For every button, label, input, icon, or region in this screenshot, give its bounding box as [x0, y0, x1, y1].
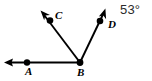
- point-label-C: C: [55, 10, 62, 21]
- ray-BD: [80, 9, 106, 63]
- point-label-B: B: [77, 67, 84, 78]
- point-dot-D: [97, 18, 104, 25]
- point-dot-C: [47, 17, 54, 24]
- point-label-A: A: [25, 66, 32, 77]
- angle-measure-label: 53°: [120, 3, 140, 16]
- geometry-figure: A B C D 53°: [0, 0, 152, 81]
- point-dot-B: [77, 59, 84, 66]
- point-label-D: D: [108, 19, 116, 30]
- ray-BA: [4, 59, 80, 67]
